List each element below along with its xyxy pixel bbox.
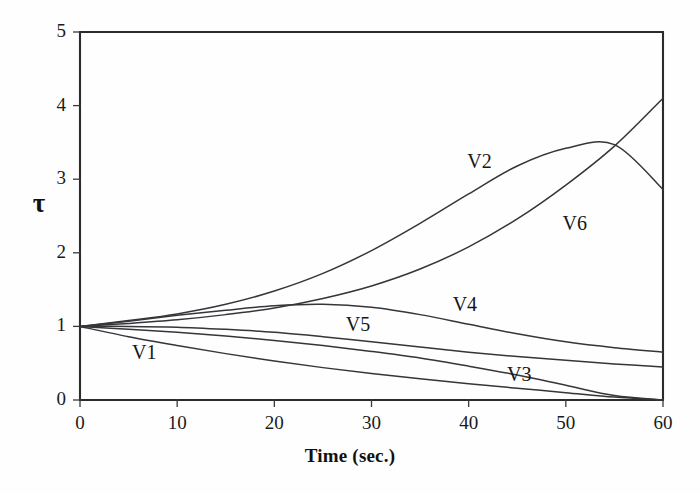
series-label-v4: V4 xyxy=(453,293,477,316)
x-tick-label-1: 10 xyxy=(152,412,202,434)
y-axis-title: τ xyxy=(22,188,56,219)
y-tick-label-5: 5 xyxy=(34,20,66,42)
series-line-v1 xyxy=(80,326,663,400)
series-lines xyxy=(80,98,663,400)
x-tick-label-4: 40 xyxy=(444,412,494,434)
y-tick-label-0: 0 xyxy=(34,388,66,410)
series-label-v3: V3 xyxy=(507,363,531,386)
x-tick-label-6: 60 xyxy=(638,412,688,434)
chart-figure: 012345 0102030405060 V1V2V3V4V5V6 τ Time… xyxy=(0,0,700,493)
series-label-v1: V1 xyxy=(132,341,156,364)
x-tick-label-2: 20 xyxy=(249,412,299,434)
x-tick-label-0: 0 xyxy=(55,412,105,434)
y-tick-label-2: 2 xyxy=(34,241,66,263)
y-tick-label-4: 4 xyxy=(34,94,66,116)
x-tick-label-3: 30 xyxy=(347,412,397,434)
x-axis-title: Time (sec.) xyxy=(0,445,700,467)
series-label-v5: V5 xyxy=(346,313,370,336)
x-tick-label-5: 50 xyxy=(541,412,591,434)
series-line-v3 xyxy=(80,326,663,400)
series-label-v6: V6 xyxy=(562,212,586,235)
y-tick-label-1: 1 xyxy=(34,314,66,336)
series-line-v4 xyxy=(80,304,663,352)
series-label-v2: V2 xyxy=(467,150,491,173)
y-tick-label-3: 3 xyxy=(34,167,66,189)
